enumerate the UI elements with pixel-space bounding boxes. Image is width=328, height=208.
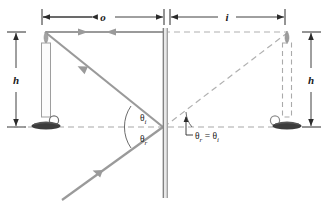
normal-indicator: [184, 116, 193, 135]
incident-ray-diagonal: [62, 127, 163, 200]
dim-arrow-o-left: [43, 14, 50, 20]
diagram-canvas: o i h h: [0, 0, 328, 208]
label-angle-reflection: θr: [140, 134, 148, 147]
virtual-ray-diagonal: [164, 33, 287, 127]
reflected-ray-horizontal-arrow: [106, 29, 116, 36]
reflected-ray-diagonal: [45, 32, 163, 127]
theta-r-subscript: r: [145, 139, 148, 147]
dim-arrow-i-left: [171, 14, 178, 20]
label-object-distance: o: [100, 11, 106, 23]
dimension-image-distance: i: [170, 9, 285, 25]
law-equals: =: [202, 131, 212, 141]
theta-i-subscript: i: [145, 118, 147, 126]
label-object-height: h: [13, 74, 19, 86]
candle-image-body: [283, 43, 292, 117]
candle-image: [270, 31, 301, 129]
dim-arrow-i-right: [277, 14, 284, 20]
label-image-height: h: [308, 74, 314, 86]
dim-arrow-h-right-bottom: [308, 119, 314, 126]
label-angle-incidence: θi: [140, 113, 147, 126]
dimension-object-distance: o: [42, 9, 164, 25]
candle-image-flame-icon: [285, 31, 289, 44]
candle-body: [42, 43, 51, 117]
plane-mirror: [163, 28, 168, 198]
reflected-ray-diagonal-arrow: [78, 66, 88, 74]
label-image-distance: i: [225, 11, 229, 23]
candle-object: [32, 31, 61, 129]
law-sub-i: i: [217, 136, 219, 144]
mirror-ray-diagram: o i h h: [0, 0, 328, 208]
label-law-of-reflection: θr = θi: [195, 131, 219, 144]
dim-arrow-h-left-top: [13, 33, 19, 40]
dim-arrow-h-right-top: [308, 33, 314, 40]
dimension-image-height: h: [302, 32, 321, 127]
dimension-object-height: h: [7, 32, 26, 127]
incident-ray-horizontal-arrow: [78, 29, 88, 36]
dim-arrow-o-right: [156, 14, 163, 20]
dim-arrow-h-left-bottom: [13, 119, 19, 126]
